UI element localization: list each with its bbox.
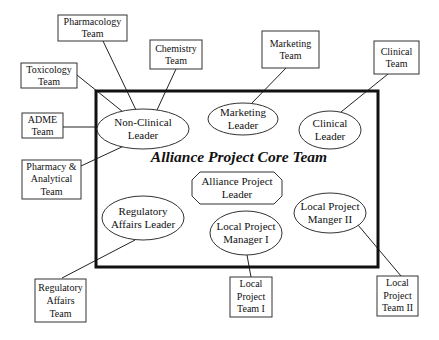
chemistry-team-label: Chemistry Team (150, 40, 202, 69)
regulatory-affairs-leader-label: Regulatory Affairs Leader (100, 196, 186, 240)
local-project-manager-1-label: Local Project Manager I (208, 211, 284, 255)
pharmacy-analytical-team-label: Pharmacy & Analytical Team (22, 160, 81, 199)
local-project-manager-2-label: Local Project Manger II (292, 193, 368, 233)
toxicology-team-label: Toxicology Team (21, 63, 77, 88)
marketing-team-label: Marketing Team (262, 31, 319, 68)
non-clinical-leader-label: Non-Clinical Leader (97, 109, 189, 149)
connector-regulatory (62, 240, 135, 278)
adme-team-label: ADME Team (22, 113, 63, 138)
local-project-team-1-label: Local Project Team I (230, 277, 272, 317)
pharmacology-team-label: Pharmacology Team (58, 15, 127, 41)
marketing-leader-label: Marketing Leader (208, 103, 278, 135)
alliance-project-leader-label: Alliance Project Leader (192, 172, 282, 204)
clinical-team-label: Clinical Team (374, 41, 419, 74)
connector-marketing (252, 68, 286, 103)
connector-toxicology (77, 75, 123, 112)
clinical-leader-label: Clinical Leader (299, 111, 361, 149)
regulatory-affairs-team-label: Regulatory Affairs Team (35, 279, 86, 322)
local-project-team-2-label: Local Project Team II (377, 276, 418, 316)
diagram-title: Alliance Project Core Team (108, 148, 370, 166)
connector-clinical (341, 74, 388, 112)
